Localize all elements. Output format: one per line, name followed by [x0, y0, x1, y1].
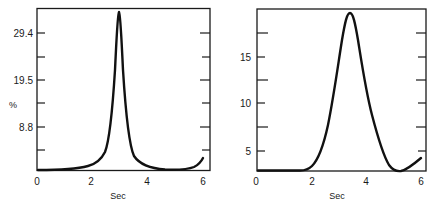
left-y-tick-label: 8.8 [19, 122, 33, 133]
right-x-axis-label: Sec [329, 191, 345, 201]
left-chart: 29.4 19.5 8.8 % 0 2 4 6 Sec [9, 9, 210, 202]
right-chart-right-ticks [416, 33, 426, 151]
right-x-tick-label: 2 [309, 176, 315, 187]
left-y-axis-label: % [9, 100, 17, 110]
right-y-tick-label: 10 [240, 98, 252, 109]
chart-canvas: 29.4 19.5 8.8 % 0 2 4 6 Sec [0, 0, 433, 208]
right-y-tick-label: 15 [240, 52, 252, 63]
right-chart: 15 10 5 0 2 4 6 Sec [240, 9, 426, 201]
left-data-curve [38, 12, 203, 170]
right-chart-left-ticks [257, 33, 268, 151]
left-x-tick-label: 6 [200, 176, 206, 187]
left-y-tick-label: 19.5 [14, 75, 34, 86]
right-y-tick-label: 5 [245, 146, 251, 157]
right-x-tick-label: 0 [253, 176, 259, 187]
left-x-tick-label: 2 [88, 176, 94, 187]
left-x-axis-label: Sec [110, 191, 126, 201]
right-plot-frame [257, 9, 426, 171]
right-x-tick-label: 6 [418, 176, 424, 187]
left-x-tick-label: 4 [144, 176, 150, 187]
left-chart-left-ticks [37, 33, 45, 150]
left-chart-right-ticks [200, 33, 210, 150]
right-x-tick-label: 4 [363, 176, 369, 187]
left-y-tick-label: 29.4 [14, 28, 34, 39]
right-data-curve [258, 13, 421, 171]
left-x-tick-label: 0 [34, 176, 40, 187]
